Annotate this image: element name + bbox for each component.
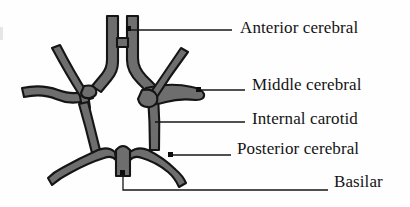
posterior-cerebral-right-vessel — [130, 148, 186, 187]
arterial-vessels — [22, 16, 204, 187]
posterior-communicating-left-vessel — [79, 102, 100, 153]
label-posterior-cerebral: Posterior cerebral — [237, 140, 359, 157]
anterior-cerebral-left-vessel — [92, 16, 118, 92]
label-basilar: Basilar — [334, 173, 383, 190]
label-middle-cerebral: Middle cerebral — [252, 76, 362, 93]
internal-carotid-right-junction — [138, 90, 157, 108]
label-internal-carotid: Internal carotid — [252, 110, 358, 127]
middle-cerebral-dot — [196, 87, 201, 92]
basilar-dot — [120, 170, 125, 175]
posterior-cerebral-left-vessel — [48, 148, 116, 185]
label-anterior-cerebral: Anterior cerebral — [240, 19, 358, 36]
basilar-leader — [123, 174, 328, 190]
circle-of-willis-figure: Anterior cerebral Middle cerebral Intern… — [0, 0, 410, 207]
middle-cerebral-left-knob — [81, 86, 96, 99]
anterior-cerebral-dot — [126, 26, 131, 31]
anterior-communicating-vessel — [117, 38, 128, 47]
posterior-cerebral-dot — [168, 152, 173, 157]
